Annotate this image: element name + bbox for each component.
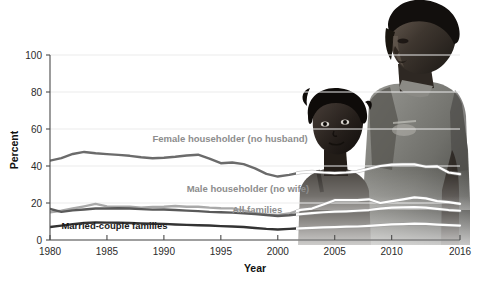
x-axis-title: Year [244,262,266,274]
x-tick-label: 1980 [39,246,62,257]
x-tick-label: 1995 [210,246,233,257]
x-tick-label: 2010 [381,246,404,257]
x-tick-label: 2016 [449,246,472,257]
y-tick-label: 20 [31,198,43,209]
y-tick-label: 80 [31,87,43,98]
series-label-1: Male householder (no wife) [187,183,309,194]
x-tick-label: 1985 [96,246,119,257]
y-tick-label: 40 [31,161,43,172]
y-axis-title: Percent [8,130,20,169]
series-label-0: Female householder (no husband) [153,133,308,144]
chart-container: 020406080100 198019851990199520002005201… [0,0,480,285]
x-tick-label: 2005 [324,246,347,257]
series-label-3: Married-couple families [61,220,167,231]
y-tick-label: 60 [31,124,43,135]
y-tick-label: 100 [25,50,42,61]
series-label-2: All families [232,204,282,215]
x-tick-label: 2000 [267,246,290,257]
y-tick-label: 0 [36,235,42,246]
line-chart-figure: 020406080100 198019851990199520002005201… [0,0,480,285]
x-tick-label: 1990 [153,246,176,257]
